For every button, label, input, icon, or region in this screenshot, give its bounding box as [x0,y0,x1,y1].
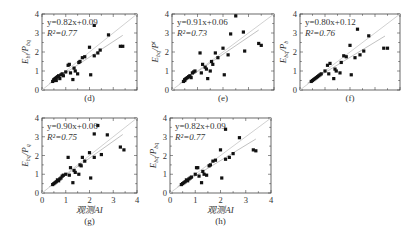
data-point [100,153,103,156]
data-point [340,61,343,64]
data-point [58,77,61,80]
scatter-panel-g: 0123401234y=0.90x+0.06R²=0.75Ebq/Pq观测AI(… [20,113,140,226]
regression-equation: y=0.82x+0.09 [47,17,98,27]
data-point [197,175,200,178]
panel-label: (e) [218,93,228,103]
data-point [205,174,208,177]
y-tick-label: 3 [35,28,39,38]
y-tick-label: 1 [35,169,39,179]
y-tick-label: 2 [163,151,167,161]
data-point [356,28,359,31]
data-point [201,63,204,66]
y-axis-label: Ebq/Pb [278,41,289,65]
y-tick-label: 0 [293,85,297,95]
x-tick-label: 4 [135,195,140,205]
data-point [228,156,231,159]
data-point [78,60,81,63]
chart-svg: 01234y=0.82x+0.09R²=0.77Ebi/Pbq(d)01234y… [0,0,419,232]
data-point [206,77,209,80]
y-tick-label: 4 [293,9,298,19]
data-point [190,76,193,79]
data-point [209,163,212,166]
y-tick-label: 3 [163,132,167,142]
data-point [327,72,330,75]
data-point [227,53,230,56]
regression-equation: y=0.91x+0.06 [177,17,228,27]
x-axis-label: 观测AI [76,205,103,215]
r-squared: R²=0.75 [46,132,78,142]
y-tick-label: 4 [165,9,170,19]
data-point [71,181,74,184]
data-point [221,47,224,50]
y-tick-label: 0 [35,85,39,95]
data-point [200,71,203,74]
data-point [234,14,237,17]
data-point [210,60,213,63]
data-point [106,133,109,136]
y-tick-label: 1 [35,66,39,76]
data-point [121,45,124,48]
data-point [382,47,385,50]
data-point [205,68,208,71]
y-tick-label: 0 [165,85,169,95]
x-axis-label: 观测AI [207,205,234,215]
y-tick-label: 1 [293,66,297,76]
data-point [200,181,203,184]
data-point [386,47,389,50]
data-point [80,164,83,167]
data-point [211,63,214,66]
y-tick-label: 4 [35,9,40,19]
x-tick-label: 4 [269,195,274,205]
data-point [196,166,199,169]
y-tick-label: 0 [163,188,167,198]
data-point [96,51,99,54]
y-tick-label: 2 [35,151,39,161]
data-point [345,55,348,58]
scatter-panel-h: 0123401234y=0.82x+0.09R²=0.77Ebq/Pbq观测AI… [148,113,274,226]
panel-label: (g) [84,216,95,226]
data-point [260,44,263,47]
y-tick-label: 3 [293,28,297,38]
x-tick-label: 2 [87,195,91,205]
scatter-panel-e: 01234y=0.91x+0.06R²=0.73Ebq/Pt(e) [150,9,274,103]
y-tick-label: 2 [35,47,39,57]
data-point [216,56,219,59]
regression-equation: y=0.90x+0.06 [47,121,98,131]
data-point [74,171,77,174]
regression-equation: y=0.82x+0.09 [175,121,226,131]
data-point [335,69,338,72]
regression-equation: y=0.80x+0.12 [305,17,356,27]
data-point [71,78,74,81]
r-squared: R²=0.73 [176,28,208,38]
data-point [74,69,77,72]
data-point [220,176,223,179]
x-tick-label: 2 [218,195,222,205]
panel-label: (d) [84,93,95,103]
data-point [229,32,232,35]
data-point [194,173,197,176]
data-point [83,160,86,163]
data-point [69,166,72,169]
scatter-panel-d: 01234y=0.82x+0.09R²=0.77Ebi/Pbq(d) [20,9,137,103]
data-point [332,77,335,80]
data-point [68,63,71,66]
data-point [89,73,92,76]
data-point [193,69,196,72]
data-point [232,152,235,155]
data-point [350,73,353,76]
y-tick-label: 1 [165,66,169,76]
y-axis-label: Ebi/Pbq [20,40,31,65]
panel-label: (f) [346,93,355,103]
data-point [88,46,91,49]
data-point [107,33,110,36]
r-squared: R²=0.77 [174,132,206,142]
data-point [348,44,351,47]
data-point [64,70,67,73]
data-point [243,49,246,52]
data-point [224,158,227,161]
data-point [190,175,193,178]
y-tick-label: 3 [165,28,169,38]
data-point [328,62,331,65]
data-point [358,53,361,56]
r-squared: R²=0.77 [46,28,78,38]
